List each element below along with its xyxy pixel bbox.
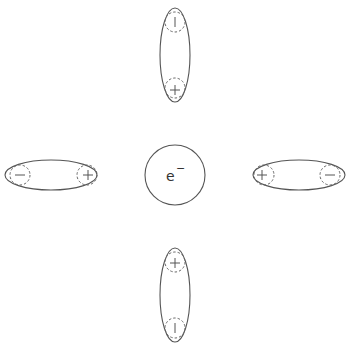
electron-label: e: [166, 168, 175, 184]
dipole-right: [253, 160, 345, 190]
electron-charge: −: [176, 162, 185, 175]
dipole-left: [5, 160, 97, 190]
electron-circle: [145, 145, 205, 205]
dipole-top: [160, 8, 190, 102]
dipole-bottom: [160, 248, 190, 342]
dipole-orientation-diagram: e −: [0, 0, 350, 351]
electron: e −: [145, 145, 205, 205]
